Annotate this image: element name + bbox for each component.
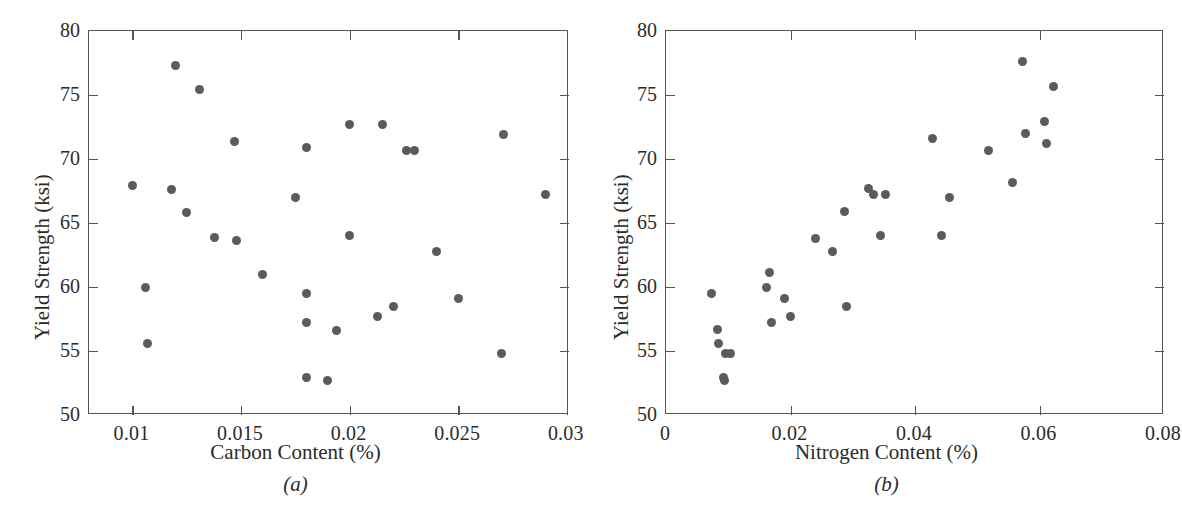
data-point <box>714 339 723 348</box>
data-point <box>842 302 851 311</box>
y-axis-title-b: Yield Strength (ksi) <box>609 174 634 340</box>
data-point <box>345 120 354 129</box>
data-point <box>786 312 795 321</box>
data-point <box>840 207 849 216</box>
x-tick-mark <box>1040 406 1041 415</box>
y-tick-mark <box>666 95 675 96</box>
data-point <box>928 134 937 143</box>
y-tick-mark <box>1155 223 1164 224</box>
x-tick-mark <box>567 406 568 415</box>
data-point <box>726 349 735 358</box>
data-point <box>720 376 729 385</box>
data-point <box>869 190 878 199</box>
x-axis-title-a: Carbon Content (%) <box>0 440 591 465</box>
x-tick-mark <box>791 406 792 415</box>
y-axis-title-a: Yield Strength (ksi) <box>30 174 55 340</box>
y-tick-mark <box>560 351 569 352</box>
data-point <box>141 283 150 292</box>
data-point <box>1040 117 1049 126</box>
data-point <box>828 247 837 256</box>
x-tick-mark <box>241 406 242 415</box>
data-point <box>210 233 219 242</box>
data-point <box>780 294 789 303</box>
subfigure-caption-a: (a) <box>0 472 591 497</box>
data-point <box>195 85 204 94</box>
data-point <box>258 270 267 279</box>
data-point <box>323 376 332 385</box>
y-tick-mark <box>666 223 675 224</box>
x-tick-mark <box>350 406 351 415</box>
data-point <box>881 190 890 199</box>
y-tick-mark <box>89 95 98 96</box>
y-tick-mark <box>666 351 675 352</box>
data-point <box>302 289 311 298</box>
data-point <box>713 325 722 334</box>
x-tick-mark <box>1040 31 1041 40</box>
plot-area-a <box>88 30 568 414</box>
subfigure-caption-b: (b) <box>591 472 1182 497</box>
scatter-points-b <box>666 31 1162 413</box>
data-point <box>402 146 411 155</box>
scatter-points-a <box>89 31 567 413</box>
x-axis-title-b: Nitrogen Content (%) <box>591 440 1182 465</box>
y-tick-label: 70 <box>46 147 80 170</box>
data-point <box>984 146 993 155</box>
data-point <box>1018 57 1027 66</box>
data-point <box>762 283 771 292</box>
y-tick-label: 75 <box>623 83 657 106</box>
data-point <box>541 190 550 199</box>
y-tick-mark <box>89 351 98 352</box>
data-point <box>373 312 382 321</box>
x-tick-mark <box>132 31 133 40</box>
y-tick-mark <box>666 159 675 160</box>
data-point <box>707 289 716 298</box>
data-point <box>167 185 176 194</box>
x-tick-mark <box>132 406 133 415</box>
plot-area-b <box>665 30 1163 414</box>
data-point <box>230 137 239 146</box>
data-point <box>332 326 341 335</box>
y-tick-label: 75 <box>46 83 80 106</box>
y-tick-label: 70 <box>623 147 657 170</box>
data-point <box>767 318 776 327</box>
y-tick-mark <box>560 223 569 224</box>
y-tick-mark <box>1155 351 1164 352</box>
data-point <box>232 236 241 245</box>
panel-a: 0.010.0150.020.0250.03 50556065707580 Yi… <box>0 0 591 517</box>
y-tick-mark <box>89 159 98 160</box>
y-tick-mark <box>666 287 675 288</box>
x-tick-mark <box>458 31 459 40</box>
data-point <box>1008 178 1017 187</box>
data-point <box>937 231 946 240</box>
x-tick-mark <box>915 31 916 40</box>
figure-container: 0.010.0150.020.0250.03 50556065707580 Yi… <box>0 0 1182 517</box>
data-point <box>171 61 180 70</box>
x-tick-mark <box>915 406 916 415</box>
data-point <box>389 302 398 311</box>
y-tick-mark <box>89 223 98 224</box>
y-tick-mark <box>89 287 98 288</box>
data-point <box>811 234 820 243</box>
data-point <box>876 231 885 240</box>
y-tick-label: 80 <box>46 19 80 42</box>
data-point <box>1021 129 1030 138</box>
y-tick-label: 55 <box>623 339 657 362</box>
data-point <box>182 208 191 217</box>
data-point <box>128 181 137 190</box>
y-tick-label: 80 <box>623 19 657 42</box>
y-tick-mark <box>1155 159 1164 160</box>
data-point <box>143 339 152 348</box>
x-tick-mark <box>458 406 459 415</box>
data-point <box>378 120 387 129</box>
data-point <box>945 193 954 202</box>
x-tick-mark <box>350 31 351 40</box>
data-point <box>499 130 508 139</box>
x-tick-mark <box>567 31 568 40</box>
data-point <box>291 193 300 202</box>
y-tick-mark <box>560 159 569 160</box>
data-point <box>410 146 419 155</box>
y-tick-mark <box>560 95 569 96</box>
y-tick-mark <box>560 287 569 288</box>
x-tick-mark <box>241 31 242 40</box>
data-point <box>454 294 463 303</box>
